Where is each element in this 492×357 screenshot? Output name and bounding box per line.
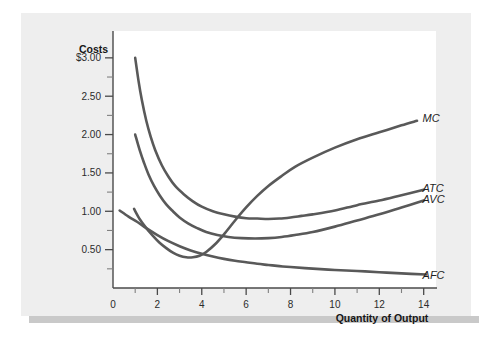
x-tick-labels: 02468101214 — [110, 299, 429, 310]
x-axis-title: Quantity of Output — [336, 312, 429, 324]
y-tick-label: 1.00 — [82, 206, 102, 217]
curve-label-afc: AFC — [422, 269, 445, 281]
x-tick-label: 6 — [243, 299, 249, 310]
x-tick-marks — [135, 288, 423, 295]
x-axis-group: 02468101214 — [110, 288, 437, 310]
curve-paths — [120, 58, 426, 275]
x-tick-label: 2 — [155, 299, 161, 310]
curve-atc — [135, 58, 423, 219]
y-tick-label: 2.50 — [82, 91, 102, 102]
y-tick-label: 1.50 — [82, 167, 102, 178]
x-tick-label: 8 — [288, 299, 294, 310]
y-axis-group: 0.501.001.502.002.50$3.00 — [76, 31, 113, 288]
x-tick-label: 4 — [199, 299, 205, 310]
curve-label-atc: ATC — [422, 182, 444, 194]
curve-series-labels: MCATCAVCAFC — [422, 112, 445, 281]
curve-label-avc: AVC — [422, 193, 445, 205]
cost-curves-chart: 0.501.001.502.002.50$3.00 02468101214 MC… — [0, 0, 492, 357]
curve-avc — [135, 135, 423, 239]
figure-root: 0.501.001.502.002.50$3.00 02468101214 MC… — [0, 0, 492, 357]
x-tick-label: 14 — [418, 299, 430, 310]
y-tick-labels: 0.501.001.502.002.50$3.00 — [76, 52, 101, 255]
y-tick-marks — [105, 58, 113, 269]
x-tick-label: 12 — [374, 299, 386, 310]
y-tick-label: 2.00 — [82, 129, 102, 140]
x-tick-label: 10 — [329, 299, 341, 310]
y-axis-title: Costs — [79, 43, 108, 55]
curve-label-mc: MC — [423, 112, 440, 124]
x-tick-label: 0 — [110, 299, 116, 310]
y-tick-label: 0.50 — [82, 244, 102, 255]
